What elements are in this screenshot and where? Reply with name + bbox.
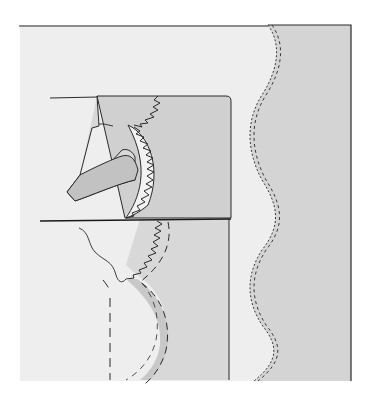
sewing-illustration <box>0 0 369 406</box>
